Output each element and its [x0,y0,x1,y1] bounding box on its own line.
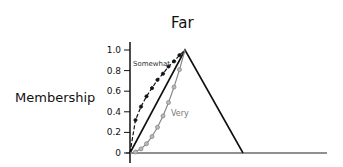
somewhat-label: Somewhat [133,60,170,68]
svg-text:1.0: 1.0 [107,45,122,55]
svg-text:0: 0 [115,148,121,158]
svg-text:0.6: 0.6 [107,86,122,96]
svg-text:0.8: 0.8 [107,66,122,76]
chart-plot: 00.20.40.60.81.0 Somewhat Very [0,0,343,167]
very-label: Very [171,109,189,118]
svg-text:0.2: 0.2 [107,127,121,137]
y-ticks: 00.20.40.60.81.0 [107,45,130,158]
svg-text:0.4: 0.4 [107,107,122,117]
